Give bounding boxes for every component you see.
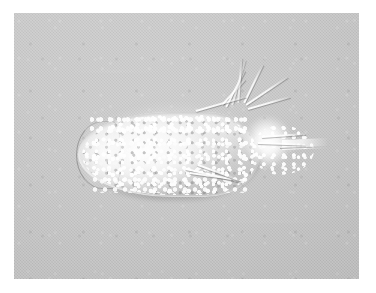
defocus-streak xyxy=(204,221,344,222)
micrograph-plate xyxy=(14,13,359,279)
figure-root xyxy=(0,0,376,293)
defocus-streak xyxy=(54,71,174,72)
ciliate-organism xyxy=(66,95,324,207)
dorsal-granule-band xyxy=(90,115,250,133)
